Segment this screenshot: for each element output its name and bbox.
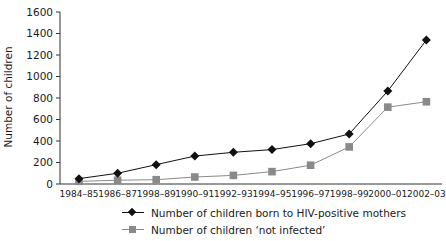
series-hiv-positive-mothers bbox=[75, 35, 431, 183]
x-axis-ticks: 1984–851986–871998–891990–911992–931994–… bbox=[60, 189, 446, 199]
y-tick-label: 1200 bbox=[26, 49, 53, 61]
data-point bbox=[268, 145, 277, 154]
x-tick-label: 1998–89 bbox=[137, 189, 176, 199]
data-point bbox=[230, 172, 238, 180]
y-tick-label: 1000 bbox=[26, 70, 53, 82]
y-axis-ticks: 02004006008001000120014001600 bbox=[26, 6, 60, 190]
data-point bbox=[113, 169, 122, 178]
x-tick-label: 1984–85 bbox=[60, 189, 99, 199]
data-point bbox=[229, 148, 238, 157]
line-chart: Number of children 020040060080010001200… bbox=[0, 0, 446, 200]
legend-item-hiv-positive-mothers: Number of children born to HIV-positive … bbox=[122, 204, 406, 221]
data-point bbox=[152, 176, 160, 184]
series-not-infected bbox=[75, 98, 430, 185]
y-tick-label: 1400 bbox=[26, 27, 53, 39]
data-point bbox=[191, 173, 199, 181]
square-marker-icon bbox=[122, 225, 144, 235]
x-tick-label: 2000–01 bbox=[368, 189, 407, 199]
data-point bbox=[268, 168, 276, 176]
data-point bbox=[306, 139, 315, 148]
x-tick-label: 1998–99 bbox=[330, 189, 369, 199]
series-layer bbox=[75, 35, 431, 185]
data-point bbox=[345, 143, 353, 151]
x-tick-label: 2002–03 bbox=[407, 189, 446, 199]
data-point bbox=[423, 98, 431, 106]
data-point bbox=[190, 152, 199, 161]
y-tick-label: 600 bbox=[33, 113, 53, 125]
y-axis-title: Number of children bbox=[2, 46, 14, 147]
axes bbox=[60, 12, 442, 184]
x-tick-label: 1986–87 bbox=[98, 189, 137, 199]
y-tick-label: 0 bbox=[46, 178, 53, 190]
data-point bbox=[152, 160, 161, 169]
x-tick-label: 1992–93 bbox=[214, 189, 253, 199]
y-tick-label: 800 bbox=[33, 92, 53, 104]
y-tick-label: 200 bbox=[33, 156, 53, 168]
legend-label: Number of children born to HIV-positive … bbox=[151, 207, 406, 219]
x-tick-label: 1990–91 bbox=[175, 189, 214, 199]
diamond-marker-icon bbox=[122, 208, 144, 218]
y-tick-label: 400 bbox=[33, 135, 53, 147]
data-point bbox=[307, 161, 315, 169]
legend: Number of children born to HIV-positive … bbox=[122, 204, 406, 238]
data-point bbox=[384, 103, 392, 111]
data-point bbox=[422, 35, 431, 44]
legend-item-not-infected: Number of children ‘not infected’ bbox=[122, 221, 406, 238]
x-tick-label: 1996–97 bbox=[291, 189, 330, 199]
legend-label: Number of children ‘not infected’ bbox=[151, 224, 325, 236]
x-tick-label: 1994–95 bbox=[253, 189, 292, 199]
y-tick-label: 1600 bbox=[26, 6, 53, 18]
